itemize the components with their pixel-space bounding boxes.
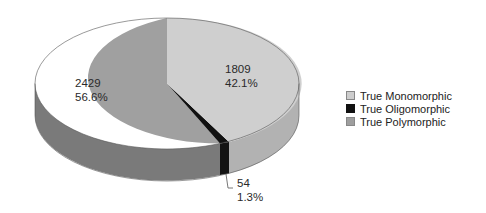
label-mono-count: 1809 [225, 63, 251, 76]
label-mono-pct: 42.1% [225, 77, 258, 90]
label-oligo-pct: 1.3% [237, 191, 263, 204]
slice-side-oligomorphic [220, 142, 229, 175]
legend-label: True Monomorphic [360, 90, 452, 102]
legend-swatch-oligomorphic [346, 104, 355, 113]
legend-swatch-monomorphic [346, 91, 355, 100]
label-poly-count: 2429 [75, 77, 101, 90]
legend-item-oligomorphic: True Oligomorphic [346, 102, 452, 115]
leader-line [226, 174, 233, 188]
legend-label: True Oligomorphic [360, 103, 450, 115]
label-poly-pct: 56.6% [75, 91, 108, 104]
legend-label: True Polymorphic [360, 116, 446, 128]
legend-swatch-polymorphic [346, 117, 355, 126]
legend-item-monomorphic: True Monomorphic [346, 89, 452, 102]
legend: True Monomorphic True Oligomorphic True … [346, 89, 452, 128]
legend-item-polymorphic: True Polymorphic [346, 115, 452, 128]
label-oligo-count: 54 [237, 177, 250, 190]
